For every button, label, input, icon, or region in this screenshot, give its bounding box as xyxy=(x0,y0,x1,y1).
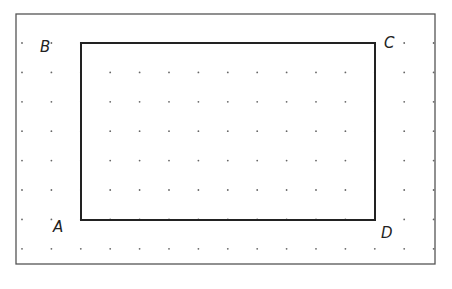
grid-dot xyxy=(345,72,347,74)
grid-dot xyxy=(403,189,405,191)
grid-dot xyxy=(51,130,53,132)
grid-dot xyxy=(198,160,200,162)
grid-dot xyxy=(433,219,435,221)
grid-dot xyxy=(168,130,170,132)
grid-dot xyxy=(227,189,229,191)
grid-dot xyxy=(345,130,347,132)
grid-dot xyxy=(433,72,435,74)
grid-dot xyxy=(227,160,229,162)
grid-dot xyxy=(315,130,317,132)
vertex-label-a: A xyxy=(52,218,63,236)
grid-dot xyxy=(21,130,23,132)
grid-dot xyxy=(109,130,111,132)
grid-dot xyxy=(433,248,435,250)
grid-dot xyxy=(109,72,111,74)
grid-dot xyxy=(256,130,258,132)
grid-dot xyxy=(109,160,111,162)
grid-dot xyxy=(21,72,23,74)
grid-dot xyxy=(403,248,405,250)
grid-dot xyxy=(21,189,23,191)
grid-dot xyxy=(227,248,229,250)
grid-dot xyxy=(109,101,111,103)
grid-dot xyxy=(227,101,229,103)
grid-dot xyxy=(139,248,141,250)
grid-dot xyxy=(403,42,405,44)
grid-dot xyxy=(139,160,141,162)
grid-dot xyxy=(109,248,111,250)
grid-dot xyxy=(345,189,347,191)
grid-dot xyxy=(51,189,53,191)
grid-dot xyxy=(433,130,435,132)
grid-dot xyxy=(168,189,170,191)
grid-dot xyxy=(433,160,435,162)
grid-dot xyxy=(345,248,347,250)
grid-dot xyxy=(315,248,317,250)
grid-dot xyxy=(286,160,288,162)
grid-dot xyxy=(80,248,82,250)
grid-dot xyxy=(315,160,317,162)
vertex-label-c: C xyxy=(384,34,395,52)
grid-dot xyxy=(51,42,53,44)
grid-dot xyxy=(403,101,405,103)
grid-dot xyxy=(286,130,288,132)
grid-dot xyxy=(256,101,258,103)
grid-dot xyxy=(139,101,141,103)
grid-dot xyxy=(168,72,170,74)
grid-dot xyxy=(21,101,23,103)
grid-dot xyxy=(51,101,53,103)
grid-dot xyxy=(168,101,170,103)
grid-dot xyxy=(51,72,53,74)
grid-dot xyxy=(21,219,23,221)
grid-dot xyxy=(315,189,317,191)
diagram-canvas: A B C D xyxy=(0,0,452,289)
grid-dot xyxy=(168,160,170,162)
grid-dot xyxy=(433,42,435,44)
grid-dot xyxy=(21,160,23,162)
grid-dot xyxy=(198,189,200,191)
grid-dot xyxy=(198,72,200,74)
grid-dot xyxy=(286,101,288,103)
grid-dot xyxy=(403,160,405,162)
grid-dot xyxy=(403,219,405,221)
grid-dot xyxy=(315,72,317,74)
grid-dot xyxy=(286,248,288,250)
grid-dot xyxy=(374,248,376,250)
dot-grid xyxy=(21,42,434,250)
grid-dot xyxy=(51,160,53,162)
grid-dot xyxy=(345,101,347,103)
grid-dot xyxy=(198,101,200,103)
grid-dot xyxy=(168,248,170,250)
grid-dot xyxy=(345,160,347,162)
grid-dot xyxy=(227,130,229,132)
grid-dot xyxy=(433,101,435,103)
grid-dot xyxy=(286,72,288,74)
grid-dot xyxy=(198,248,200,250)
grid-dot xyxy=(198,130,200,132)
outer-frame xyxy=(16,14,435,264)
grid-dot xyxy=(21,42,23,44)
grid-dot xyxy=(256,248,258,250)
grid-dot xyxy=(139,72,141,74)
grid-dot xyxy=(403,72,405,74)
vertex-label-b: B xyxy=(40,38,50,56)
vertex-label-d: D xyxy=(381,224,393,242)
grid-dot xyxy=(139,130,141,132)
grid-dot xyxy=(403,130,405,132)
grid-dot xyxy=(21,248,23,250)
grid-dot xyxy=(109,189,111,191)
grid-dot xyxy=(256,189,258,191)
grid-dot xyxy=(433,189,435,191)
grid-dot xyxy=(256,160,258,162)
grid-dot xyxy=(315,101,317,103)
grid-dot xyxy=(286,189,288,191)
grid-dot xyxy=(139,189,141,191)
grid-dot xyxy=(227,72,229,74)
grid-dot xyxy=(256,72,258,74)
grid-dot xyxy=(51,248,53,250)
